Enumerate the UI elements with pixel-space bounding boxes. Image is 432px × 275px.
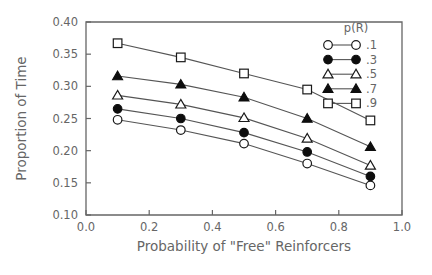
y-tick-label: 0.35: [52, 47, 78, 61]
marker-filled-circle: [366, 172, 375, 181]
chart-figure: 0.100.150.200.250.300.350.400.00.20.40.6…: [0, 0, 432, 275]
series-p7: [113, 71, 376, 150]
marker-filled-circle: [303, 148, 312, 157]
y-tick-label: 0.10: [52, 208, 78, 222]
y-tick-label: 0.25: [52, 112, 78, 126]
marker-open-circle: [324, 41, 333, 50]
marker-open-circle: [177, 126, 186, 135]
y-axis-title: Proportion of Time: [13, 56, 29, 180]
marker-filled-circle: [177, 114, 186, 123]
marker-filled-triangle: [351, 84, 361, 93]
marker-open-square: [177, 53, 186, 62]
x-tick-label: 0.0: [77, 220, 95, 234]
chart-svg: 0.100.150.200.250.300.350.400.00.20.40.6…: [0, 0, 432, 275]
marker-open-square: [113, 39, 122, 48]
legend-item-p1[interactable]: .1: [324, 38, 377, 52]
x-tick-label: 0.6: [266, 220, 284, 234]
legend-item-p5[interactable]: .5: [323, 67, 377, 81]
legend-label: .7: [366, 82, 377, 96]
marker-filled-circle: [324, 55, 333, 64]
legend-label: .9: [366, 96, 377, 110]
marker-open-square: [352, 99, 361, 108]
legend-item-p9[interactable]: .9: [324, 96, 377, 110]
marker-open-circle: [113, 115, 122, 124]
marker-open-circle: [352, 41, 361, 50]
marker-open-triangle: [365, 161, 375, 170]
marker-filled-circle: [352, 55, 361, 64]
marker-open-triangle: [351, 69, 361, 78]
marker-open-circle: [366, 181, 375, 190]
x-tick-label: 1.0: [393, 220, 411, 234]
legend-label: .1: [366, 38, 377, 52]
x-tick-label: 0.4: [203, 220, 221, 234]
series-line: [118, 43, 371, 120]
marker-open-square: [303, 85, 312, 94]
marker-filled-circle: [113, 105, 122, 114]
x-axis-title: Probability of "Free" Reinforcers: [137, 238, 351, 254]
x-tick-label: 0.8: [330, 220, 348, 234]
series-p1: [113, 115, 374, 189]
marker-open-square: [366, 116, 375, 125]
y-tick-label: 0.30: [52, 79, 78, 93]
marker-filled-circle: [240, 128, 249, 137]
marker-filled-triangle: [365, 142, 375, 151]
y-tick-label: 0.15: [52, 176, 78, 190]
marker-filled-triangle: [323, 84, 333, 93]
legend-title: p(R): [344, 21, 368, 35]
marker-filled-triangle: [113, 71, 123, 80]
x-tick-label: 0.2: [140, 220, 158, 234]
legend-label: .3: [366, 53, 377, 67]
marker-open-circle: [303, 159, 312, 168]
marker-open-square: [324, 99, 333, 108]
marker-open-triangle: [113, 90, 123, 99]
marker-open-triangle: [323, 69, 333, 78]
y-tick-label: 0.40: [52, 15, 78, 29]
legend-label: .5: [366, 67, 377, 81]
marker-open-circle: [240, 139, 249, 148]
marker-open-square: [240, 69, 249, 78]
legend-item-p3[interactable]: .3: [324, 53, 377, 67]
y-tick-label: 0.20: [52, 144, 78, 158]
legend-item-p7[interactable]: .7: [323, 82, 377, 96]
